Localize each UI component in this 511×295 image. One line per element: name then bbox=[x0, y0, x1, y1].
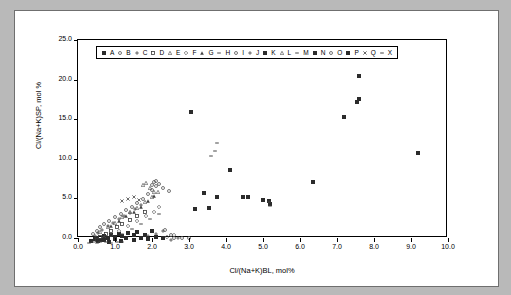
data-point bbox=[130, 217, 134, 221]
data-point bbox=[117, 209, 121, 213]
x-tick bbox=[78, 238, 79, 242]
data-point bbox=[342, 105, 346, 109]
legend-label: J bbox=[256, 49, 259, 56]
y-tick bbox=[74, 159, 78, 160]
legend-item: M bbox=[295, 49, 308, 56]
legend-marker-icon bbox=[263, 49, 270, 56]
chart-panel: Cl/(Na+K)SP, mol % ABCDEFGHIJKLMNOPQX 0.… bbox=[14, 10, 499, 287]
legend-marker-icon bbox=[200, 49, 207, 56]
data-point bbox=[132, 200, 136, 204]
data-point bbox=[120, 230, 124, 234]
legend-label: H bbox=[225, 49, 230, 56]
data-point bbox=[132, 185, 136, 189]
legend-marker-icon bbox=[135, 49, 142, 56]
x-tick bbox=[448, 238, 449, 242]
legend-marker-icon bbox=[217, 49, 224, 56]
y-tick-label: 25.0 bbox=[46, 35, 72, 42]
data-point bbox=[124, 204, 128, 208]
y-tick-label: 15.0 bbox=[46, 114, 72, 121]
legend-marker-icon bbox=[102, 49, 109, 56]
x-tick bbox=[300, 238, 301, 242]
legend-item: N bbox=[313, 49, 326, 56]
data-point bbox=[261, 188, 265, 192]
legend-item: A bbox=[102, 49, 114, 56]
data-point bbox=[209, 144, 213, 148]
data-point bbox=[139, 212, 143, 216]
y-tick-label: 10.0 bbox=[46, 154, 72, 161]
legend-item: L bbox=[280, 49, 292, 56]
data-point bbox=[139, 226, 143, 230]
data-point bbox=[215, 131, 219, 135]
y-tick bbox=[74, 80, 78, 81]
data-point bbox=[357, 87, 361, 91]
data-point bbox=[154, 225, 158, 229]
x-tick-label: 7.0 bbox=[322, 243, 352, 250]
x-tick-label: 0.0 bbox=[63, 243, 93, 250]
data-point bbox=[311, 170, 315, 174]
y-tick-label: 5.0 bbox=[46, 193, 72, 200]
y-tick-label: 0.0 bbox=[46, 233, 72, 240]
y-tick bbox=[74, 40, 78, 41]
x-tick-label: 4.0 bbox=[211, 243, 241, 250]
data-point bbox=[120, 189, 124, 193]
legend-marker-icon bbox=[184, 49, 191, 56]
legend-marker-icon bbox=[234, 49, 241, 56]
legend-label: E bbox=[176, 49, 180, 56]
data-point bbox=[202, 181, 206, 185]
data-point bbox=[416, 141, 420, 145]
data-point bbox=[152, 180, 156, 184]
data-point bbox=[228, 158, 232, 162]
legend-label: M bbox=[303, 49, 308, 56]
legend-marker-icon bbox=[280, 49, 287, 56]
data-point bbox=[241, 185, 245, 189]
data-point bbox=[180, 226, 184, 230]
x-tick-label: 8.0 bbox=[359, 243, 389, 250]
data-point bbox=[152, 200, 156, 204]
legend-item: C bbox=[135, 49, 148, 56]
legend-label: G bbox=[208, 49, 213, 56]
y-tick bbox=[74, 119, 78, 120]
data-point bbox=[120, 222, 124, 226]
x-tick-label: 1.0 bbox=[100, 243, 130, 250]
plot-area: ABCDEFGHIJKLMNOPQX 0.01.02.03.04.05.06.0… bbox=[77, 39, 447, 237]
data-point bbox=[172, 226, 176, 230]
legend-label: D bbox=[159, 49, 164, 56]
y-tick bbox=[74, 198, 78, 199]
data-point bbox=[148, 207, 152, 211]
legend-label: B bbox=[126, 49, 130, 56]
legend-label: K bbox=[271, 49, 275, 56]
data-point bbox=[109, 214, 113, 218]
legend-marker-icon bbox=[248, 49, 255, 56]
legend-item: B bbox=[118, 49, 130, 56]
data-point bbox=[167, 179, 171, 183]
legend-marker-icon bbox=[363, 49, 370, 56]
legend-label: F bbox=[192, 49, 196, 56]
legend-label: Q bbox=[371, 49, 376, 56]
data-point bbox=[146, 227, 150, 231]
data-point bbox=[187, 226, 191, 230]
data-point bbox=[357, 64, 361, 68]
legend-item: E bbox=[168, 49, 180, 56]
data-point bbox=[126, 187, 130, 191]
legend-label: A bbox=[110, 49, 114, 56]
legend-label: X bbox=[388, 49, 392, 56]
x-tick bbox=[226, 238, 227, 242]
data-point bbox=[132, 228, 136, 232]
legend-label: C bbox=[143, 49, 148, 56]
legend-item: K bbox=[263, 49, 275, 56]
legend-item: O bbox=[329, 49, 342, 56]
data-point bbox=[124, 226, 128, 230]
data-point bbox=[104, 230, 108, 234]
data-point bbox=[144, 171, 148, 175]
data-point bbox=[246, 185, 250, 189]
legend-item: X bbox=[380, 49, 392, 56]
legend: ABCDEFGHIJKLMNOPQX bbox=[96, 46, 398, 59]
data-point bbox=[157, 195, 161, 199]
legend-marker-icon bbox=[168, 49, 175, 56]
x-tick bbox=[115, 238, 116, 242]
x-tick-label: 3.0 bbox=[174, 243, 204, 250]
x-tick-label: 9.0 bbox=[396, 243, 426, 250]
legend-label: L bbox=[288, 49, 292, 56]
legend-marker-icon bbox=[151, 49, 158, 56]
legend-item: G bbox=[200, 49, 213, 56]
